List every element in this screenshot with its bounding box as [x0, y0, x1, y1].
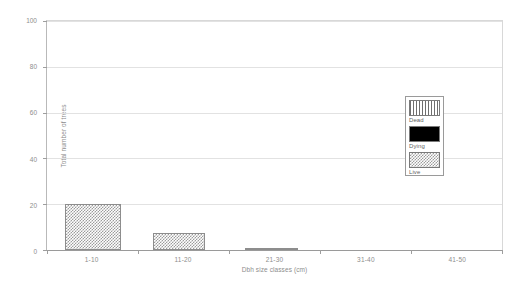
x-tick-3 [320, 250, 321, 254]
bar-chart: 100 80 60 40 20 0 Total number of trees [0, 0, 509, 282]
legend-swatch-live-icon [409, 152, 440, 168]
x-tick-5 [502, 250, 503, 254]
legend-item-dead: Dead [409, 100, 440, 125]
x-tick-0 [47, 250, 48, 254]
y-tick-label: 100 [26, 17, 37, 24]
x-tick-label-41-50: 41-50 [448, 256, 466, 263]
y-tick-20 [43, 204, 47, 205]
legend-label-dying: Dying [409, 142, 440, 151]
y-axis-title: Total number of trees [60, 76, 67, 196]
y-tick-40 [43, 158, 47, 159]
legend: Dead Dying Live [405, 96, 444, 176]
y-tick-label: 40 [30, 155, 37, 162]
bar-11-20 [153, 233, 206, 250]
legend-item-dying: Dying [409, 126, 440, 151]
x-tick-2 [229, 250, 230, 254]
y-axis: 100 80 60 40 20 0 [0, 20, 42, 251]
bar-1-10 [65, 204, 121, 250]
y-tick-60 [43, 113, 47, 114]
x-tick-label-21-30: 21-30 [266, 256, 284, 263]
x-tick-label-31-40: 31-40 [357, 256, 375, 263]
gridline-100 [47, 21, 502, 22]
legend-swatch-dead-icon [409, 100, 440, 116]
x-tick-label-1-10: 1-10 [85, 256, 99, 263]
y-tick-label: 80 [30, 63, 37, 70]
x-tick-label-11-20: 11-20 [175, 256, 192, 263]
bar-21-30 [245, 248, 298, 250]
gridline-80 [47, 67, 502, 68]
legend-item-live: Live [409, 152, 440, 177]
y-tick-label: 60 [30, 109, 37, 116]
y-tick-label: 20 [30, 201, 37, 208]
x-tick-1 [138, 250, 139, 254]
x-axis-title: Dbh size classes (cm) [46, 266, 503, 273]
x-tick-4 [411, 250, 412, 254]
y-tick-100 [43, 21, 47, 22]
legend-swatch-dying-icon [409, 126, 440, 142]
y-tick-label: 0 [33, 248, 37, 255]
y-tick-80 [43, 67, 47, 68]
plot-area: Total number of trees [46, 20, 503, 251]
legend-label-dead: Dead [409, 116, 440, 125]
legend-label-live: Live [409, 168, 440, 177]
